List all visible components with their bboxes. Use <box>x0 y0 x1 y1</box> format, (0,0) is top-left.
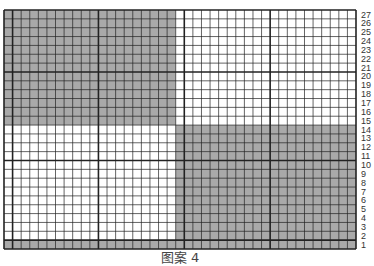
figure-caption: 图案 4 <box>0 247 360 266</box>
row-number-label: 1 <box>361 240 366 250</box>
